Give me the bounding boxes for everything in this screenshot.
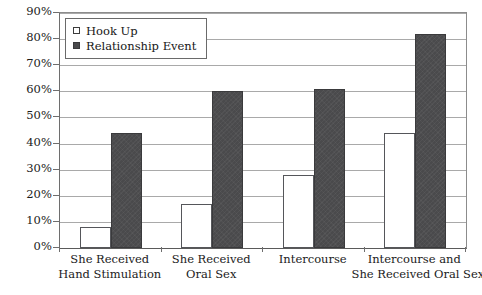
y-axis-tick-label: 50%: [14, 108, 52, 122]
bar-relationship-event: [111, 133, 142, 248]
y-axis-tick-label: 40%: [14, 135, 52, 149]
filled-square-icon: [73, 42, 80, 49]
x-axis-category-label-line: Oral Sex: [149, 267, 275, 282]
bar-hook-up: [80, 227, 111, 248]
legend-item-hook-up: Hook Up: [73, 23, 196, 38]
bar-hook-up: [384, 133, 415, 248]
y-axis-tick-label: 20%: [14, 187, 52, 201]
y-axis-tick-label: 10%: [14, 213, 52, 227]
bar-chart: 0%10%20%30%40%50%60%70%80%90% Hook Up Re…: [0, 0, 482, 295]
y-axis-tick-label: 30%: [14, 161, 52, 175]
bar-hook-up: [181, 204, 212, 248]
x-axis-category-label-line: She Received Oral Sex: [352, 267, 478, 282]
gridline: [60, 91, 466, 92]
y-axis-tick-label: 60%: [14, 82, 52, 96]
gridline: [60, 65, 466, 66]
x-axis-category-label-line: Intercourse and: [352, 252, 478, 267]
legend-label-relationship-event: Relationship Event: [86, 39, 196, 53]
bar-relationship-event: [314, 89, 345, 248]
gridline: [60, 13, 466, 14]
x-axis-category-labels: She ReceivedHand StimulationShe Received…: [59, 252, 465, 294]
bar-relationship-event: [415, 34, 446, 248]
y-axis-tick-label: 80%: [14, 30, 52, 44]
open-square-icon: [73, 27, 80, 34]
bar-relationship-event: [212, 91, 243, 248]
y-axis-tick-label: 0%: [14, 239, 52, 253]
legend-item-relationship-event: Relationship Event: [73, 38, 196, 53]
bar-hook-up: [283, 175, 314, 248]
gridline: [60, 117, 466, 118]
y-axis-tick-label: 90%: [14, 4, 52, 18]
chart-legend: Hook Up Relationship Event: [65, 18, 207, 59]
legend-label-hook-up: Hook Up: [86, 24, 138, 38]
y-axis-tick-label: 70%: [14, 56, 52, 70]
x-axis-category-label: Intercourse andShe Received Oral Sex: [352, 252, 478, 281]
